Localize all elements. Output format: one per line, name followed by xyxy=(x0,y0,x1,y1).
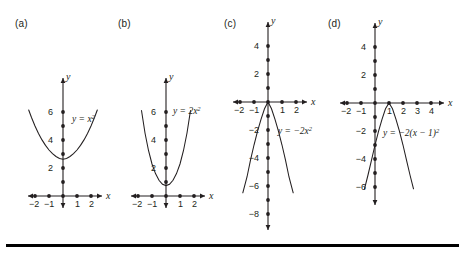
x-axis-arrow-left-b xyxy=(131,194,136,199)
y-ticklabel-a-2: 2 xyxy=(48,163,53,173)
y-axis-label-b: y xyxy=(168,71,174,82)
y-axis-arrow-down-b xyxy=(164,203,169,208)
y-ticklabel-c-neg2: −2 xyxy=(249,125,259,135)
x-tick-dot-d xyxy=(359,101,363,105)
x-tick-dot-d xyxy=(429,101,433,105)
x-ticklabel-c-neg2: −2 xyxy=(234,105,244,115)
y-tick-dot-c xyxy=(266,128,270,132)
y-ticklabel-c-neg8: −8 xyxy=(249,209,259,219)
y-tick-dot-a xyxy=(61,180,65,184)
x-axis-arrow-left-c xyxy=(233,100,238,105)
y-tick-dot-b xyxy=(164,138,168,142)
panel-c: (c) xyxy=(212,0,334,240)
x-tick-dot-c xyxy=(294,100,298,104)
y-axis-arrow-down-d xyxy=(373,200,378,205)
y-tick-dot-a xyxy=(61,110,65,114)
y-tick-dot-c xyxy=(266,72,270,76)
y-axis-arrow-down-a xyxy=(61,203,66,208)
x-tick-dot-d xyxy=(401,101,405,105)
y-tick-dot-c xyxy=(266,212,270,216)
y-axis-arrow-up-d xyxy=(373,23,378,28)
x-tick-dot-c xyxy=(252,100,256,104)
bottom-horizontal-rule xyxy=(6,244,459,247)
origin-dot-d xyxy=(373,101,377,105)
y-ticklabel-d-4: 4 xyxy=(361,42,366,52)
y-tick-dot-d xyxy=(373,185,377,189)
y-tick-dot-b xyxy=(164,124,168,128)
y-tick-dot-c xyxy=(266,142,270,146)
x-ticklabel-d-2: 2 xyxy=(401,106,406,116)
y-tick-dot-b xyxy=(164,152,168,156)
y-axis-arrow-up-b xyxy=(164,78,169,83)
panel-a-plot: x y −2 −1 1 2 2 4 6 y = x2 xyxy=(0,0,116,240)
x-axis-label-d: x xyxy=(447,97,453,108)
y-tick-dot-c xyxy=(266,58,270,62)
figure-container: (a) x y xyxy=(0,0,465,257)
x-axis-arrow-right-c xyxy=(302,100,307,105)
y-tick-dot-d xyxy=(373,87,377,91)
y-ticklabel-b-4: 4 xyxy=(151,135,156,145)
y-tick-dot-b xyxy=(164,166,168,170)
panel-b-plot: x y −2 −1 1 2 2 4 6 y = 2x2 xyxy=(103,0,219,240)
x-ticklabel-d-neg2: −2 xyxy=(341,106,351,116)
panel-b-label: (b) xyxy=(118,18,131,29)
y-tick-dot-d xyxy=(373,115,377,119)
x-ticklabel-a-neg1: −1 xyxy=(44,199,54,209)
x-tick-dot-a xyxy=(47,194,51,198)
x-ticklabel-a-2: 2 xyxy=(89,199,94,209)
y-ticklabel-a-6: 6 xyxy=(48,107,53,117)
y-tick-dot-d xyxy=(373,45,377,49)
x-axis-label-c: x xyxy=(310,96,316,107)
x-ticklabel-d-neg1: −1 xyxy=(356,106,366,116)
y-ticklabel-c-2: 2 xyxy=(254,69,259,79)
x-tick-dot-b xyxy=(150,194,154,198)
y-tick-dot-d xyxy=(373,171,377,175)
y-tick-dot-c xyxy=(266,170,270,174)
y-ticklabel-b-6: 6 xyxy=(151,107,156,117)
x-tick-dot-a xyxy=(33,194,37,198)
y-tick-dot-d xyxy=(373,59,377,63)
y-ticklabel-d-2: 2 xyxy=(361,70,366,80)
y-ticklabel-d-neg4: −4 xyxy=(356,154,366,164)
equation-label-c: y = −2x2 xyxy=(277,125,313,137)
x-ticklabel-a-1: 1 xyxy=(75,199,80,209)
panel-c-plot: x y −2 −1 1 2 4 2 −2 −4 −6 −8 y = −2x2 xyxy=(212,0,334,246)
x-tick-dot-c xyxy=(280,100,284,104)
panel-a: (a) x y xyxy=(0,0,116,240)
y-tick-dot-d xyxy=(373,157,377,161)
y-tick-dot-a xyxy=(61,152,65,156)
x-ticklabel-d-1: 1 xyxy=(387,106,392,116)
x-tick-dot-d xyxy=(345,101,349,105)
panel-d-label: (d) xyxy=(328,18,341,29)
y-ticklabel-b-2: 2 xyxy=(151,163,156,173)
origin-dot-b xyxy=(164,194,168,198)
panel-d: (d) xyxy=(320,0,465,240)
y-tick-dot-c xyxy=(266,198,270,202)
x-ticklabel-d-4: 4 xyxy=(429,106,434,116)
y-tick-dot-c xyxy=(266,114,270,118)
x-axis-arrow-right-a xyxy=(97,194,102,199)
x-tick-dot-b xyxy=(192,194,196,198)
y-tick-dot-c xyxy=(266,44,270,48)
y-ticklabel-d-neg2: −2 xyxy=(356,126,366,136)
x-ticklabel-b-1: 1 xyxy=(178,199,183,209)
x-tick-dot-c xyxy=(238,100,242,104)
origin-dot-a xyxy=(61,194,65,198)
x-tick-dot-b xyxy=(178,194,182,198)
x-ticklabel-b-neg1: −1 xyxy=(147,199,157,209)
equation-label-a: y = x2 xyxy=(71,113,96,125)
x-axis-arrow-right-b xyxy=(200,194,205,199)
x-ticklabel-d-3: 3 xyxy=(415,106,420,116)
y-tick-dot-d xyxy=(373,129,377,133)
panel-b: (b) x y −2 −1 1 2 xyxy=(103,0,219,240)
y-ticklabel-c-neg4: −4 xyxy=(249,153,259,163)
y-tick-dot-a xyxy=(61,138,65,142)
y-tick-dot-a xyxy=(61,166,65,170)
y-axis-arrow-up-c xyxy=(266,22,271,27)
y-axis-label-c: y xyxy=(270,15,276,26)
y-tick-dot-b xyxy=(164,110,168,114)
y-axis-label-d: y xyxy=(377,16,383,27)
y-tick-dot-c xyxy=(266,184,270,188)
x-axis-arrow-left-d xyxy=(340,101,345,106)
y-ticklabel-c-4: 4 xyxy=(254,41,259,51)
